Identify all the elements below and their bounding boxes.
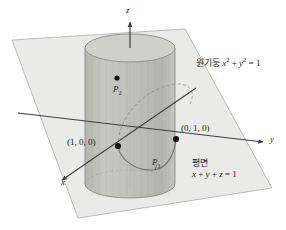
plane-equation: x + y + z = 1: [192, 169, 237, 179]
point-label-P1: P1: [152, 157, 161, 169]
z-axis-label: z: [126, 6, 129, 16]
dot-point-1-0-0: [115, 143, 121, 149]
plane-op1: +: [198, 169, 203, 179]
cylinder-value: 1: [256, 58, 261, 68]
point-label-P2: P2: [113, 84, 122, 96]
plane-equals: =: [225, 169, 230, 179]
y-axis-label: y: [270, 135, 274, 145]
point-label-0-1-0: (0, 1, 0): [181, 123, 210, 133]
x-axis-label: x: [61, 178, 65, 188]
plane-value: 1: [232, 169, 237, 179]
dot-point-0-1-0: [173, 136, 179, 142]
figure-graphics: [0, 0, 286, 230]
cylinder-equation-label: 원기둥 x2 + y2 = 1: [196, 56, 260, 68]
cylinder-keyword: 원기둥: [196, 58, 220, 68]
plane-op2: +: [212, 169, 217, 179]
figure-canvas: z y x (1, 0, 0) (0, 1, 0) P1 P2 원기둥 x2 +…: [0, 0, 286, 230]
P2-subscript: 2: [119, 89, 122, 96]
point-label-1-0-0: (1, 0, 0): [67, 137, 96, 147]
cylinder-plus: +: [232, 58, 237, 68]
dot-point-P2: [114, 75, 119, 80]
P1-subscript: 1: [158, 162, 161, 169]
cylinder-equals: =: [249, 58, 254, 68]
plane-equation-label: 평면 x + y + z = 1: [192, 158, 237, 179]
plane-keyword: 평면: [192, 158, 237, 168]
